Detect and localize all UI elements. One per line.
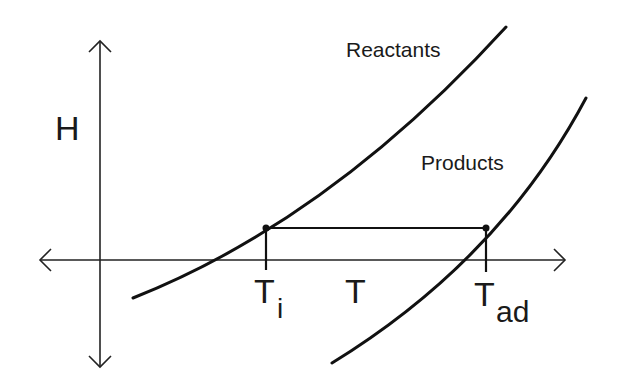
h-axis-label: H [55,109,80,147]
tad-sub: ad [496,295,529,328]
ti-label: T i [254,272,283,324]
products-label: Products [421,151,504,174]
t-axis-label: T [345,272,366,310]
ti-main: T [254,272,275,310]
reactants-label: Reactants [346,38,441,61]
tad-point [483,225,490,232]
tad-label: T ad [474,275,529,328]
enthalpy-diagram: H Reactants Products T T i T ad [0,0,618,390]
tad-main: T [474,275,495,313]
ti-sub: i [277,293,283,324]
products-curve [332,98,586,363]
vertical-axis [89,41,111,367]
ti-point [263,225,270,232]
